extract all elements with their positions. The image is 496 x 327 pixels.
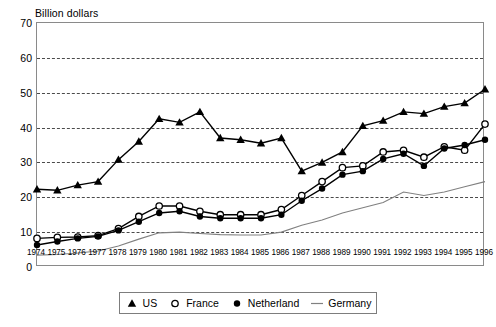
y-axis-tick-label: 40 bbox=[20, 122, 32, 134]
x-axis-tick-label: 1992 bbox=[394, 248, 412, 257]
filled-triangle-icon bbox=[125, 298, 139, 309]
x-axis-tick-label: 1985 bbox=[251, 248, 269, 257]
data-point-marker bbox=[339, 171, 345, 177]
data-point-marker bbox=[481, 85, 489, 92]
legend-item-france: France bbox=[168, 297, 219, 309]
y-axis-tick-label: 10 bbox=[20, 226, 32, 238]
data-point-marker bbox=[318, 158, 326, 165]
legend-label: France bbox=[186, 297, 219, 309]
data-point-marker bbox=[95, 233, 101, 239]
x-axis-tick-label: 1976 bbox=[68, 248, 86, 257]
x-axis-tick-label: 1989 bbox=[333, 248, 351, 257]
data-point-marker bbox=[234, 300, 240, 306]
open-circle-icon bbox=[168, 298, 182, 309]
chart-container: Billion dollars 010203040506070 19741975… bbox=[0, 0, 496, 327]
data-point-marker bbox=[339, 164, 345, 170]
plot-area: 010203040506070 bbox=[36, 22, 484, 266]
legend-label: Netherland bbox=[248, 297, 299, 309]
legend-label: US bbox=[143, 297, 158, 309]
x-axis-tick-label: 1984 bbox=[231, 248, 249, 257]
x-axis-tick-label: 1988 bbox=[312, 248, 330, 257]
data-point-marker bbox=[319, 185, 325, 191]
data-point-marker bbox=[482, 137, 488, 143]
data-point-marker bbox=[136, 218, 142, 224]
x-axis-tick-label: 1983 bbox=[210, 248, 228, 257]
data-point-marker bbox=[278, 212, 284, 218]
y-axis-tick-label: 30 bbox=[20, 156, 32, 168]
data-point-marker bbox=[156, 210, 162, 216]
x-axis-tick-label: 1979 bbox=[129, 248, 147, 257]
y-axis-tick-label: 60 bbox=[20, 52, 32, 64]
data-point-marker bbox=[258, 215, 264, 221]
series-layer bbox=[37, 23, 485, 267]
y-axis-title: Billion dollars bbox=[35, 7, 98, 19]
data-point-marker bbox=[54, 238, 60, 244]
x-axis-tick-label: 1993 bbox=[414, 248, 432, 257]
y-axis-tick-label: 70 bbox=[20, 17, 32, 29]
data-point-marker bbox=[277, 134, 285, 141]
data-point-marker bbox=[115, 227, 121, 233]
data-point-marker bbox=[156, 203, 162, 209]
x-axis-tick-label: 1990 bbox=[353, 248, 371, 257]
data-point-marker bbox=[75, 235, 81, 241]
x-axis-tick-label: 1978 bbox=[109, 248, 127, 257]
legend-item-netherland: Netherland bbox=[230, 297, 299, 309]
data-point-marker bbox=[127, 299, 135, 306]
data-point-marker bbox=[421, 163, 427, 169]
data-point-marker bbox=[197, 213, 203, 219]
data-point-marker bbox=[360, 168, 366, 174]
x-axis-tick-label: 1996 bbox=[475, 248, 493, 257]
line-icon bbox=[310, 298, 324, 309]
legend-item-us: US bbox=[125, 297, 158, 309]
data-point-marker bbox=[299, 198, 305, 204]
x-axis-tick-label: 1977 bbox=[88, 248, 106, 257]
x-axis-tick-label: 1974 bbox=[27, 248, 45, 257]
y-axis-tick-label: 50 bbox=[20, 87, 32, 99]
data-point-marker bbox=[380, 156, 386, 162]
data-point-marker bbox=[155, 115, 163, 122]
legend-label: Germany bbox=[328, 297, 371, 309]
x-axis-tick-label: 1994 bbox=[434, 248, 452, 257]
data-point-marker bbox=[460, 99, 468, 106]
y-axis-tick-label: 20 bbox=[20, 191, 32, 203]
data-point-marker bbox=[237, 215, 243, 221]
x-axis-tick-label: 1980 bbox=[149, 248, 167, 257]
x-axis-tick-label: 1975 bbox=[47, 248, 65, 257]
x-axis-tick-label: 1995 bbox=[455, 248, 473, 257]
legend-item-germany: Germany bbox=[310, 297, 371, 309]
data-point-marker bbox=[399, 108, 407, 115]
data-point-marker bbox=[461, 142, 467, 148]
data-point-marker bbox=[400, 151, 406, 157]
x-axis-tick-label: 1987 bbox=[292, 248, 310, 257]
data-point-marker bbox=[441, 145, 447, 151]
x-axis-tick-label: 1981 bbox=[170, 248, 188, 257]
data-point-marker bbox=[172, 300, 178, 306]
filled-circle-icon bbox=[230, 298, 244, 309]
data-point-marker bbox=[421, 154, 427, 160]
data-point-marker bbox=[217, 215, 223, 221]
data-point-marker bbox=[482, 121, 488, 127]
data-point-marker bbox=[380, 149, 386, 155]
x-axis-tick-label: 1982 bbox=[190, 248, 208, 257]
data-point-marker bbox=[196, 108, 204, 115]
chart-legend: USFranceNetherlandGermany bbox=[119, 292, 377, 314]
x-axis-tick-label: 1991 bbox=[373, 248, 391, 257]
data-point-marker bbox=[176, 208, 182, 214]
data-point-marker bbox=[34, 235, 40, 241]
data-point-marker bbox=[319, 178, 325, 184]
y-axis-tick-label: 0 bbox=[26, 261, 32, 273]
x-axis-tick-label: 1986 bbox=[271, 248, 289, 257]
